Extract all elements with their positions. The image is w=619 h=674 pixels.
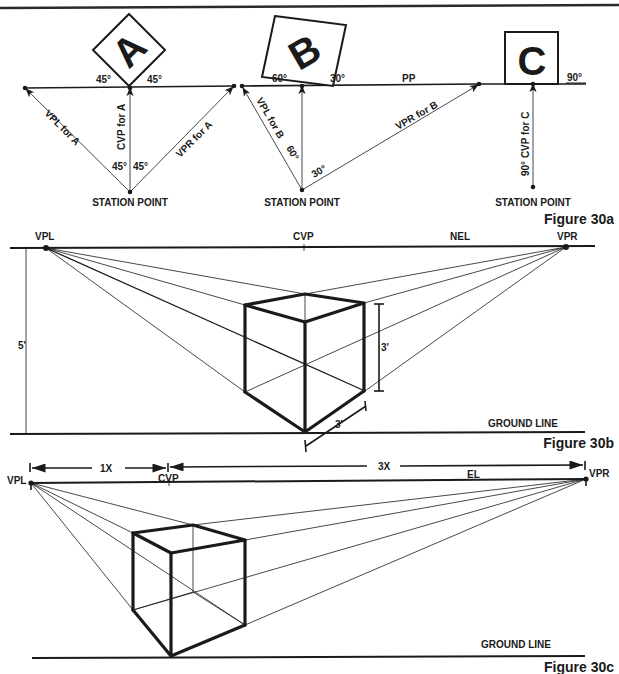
sp-angle-label: 30° <box>310 163 329 180</box>
vpr-label: VPR <box>557 231 578 242</box>
horizon-line <box>10 246 595 248</box>
ground-line-label: GROUND LINE <box>481 639 551 650</box>
angle-label: 90° <box>567 72 582 83</box>
station-point-c <box>531 185 536 190</box>
cube-30c <box>133 525 245 656</box>
station-point-c-label: STATION POINT <box>495 197 571 208</box>
vpr-label: VPR <box>589 468 610 479</box>
cube-depth-label: 3' <box>335 419 343 430</box>
cvp-label: CVP <box>293 231 314 242</box>
ground-line <box>32 656 585 658</box>
angle-label: 45° <box>96 74 111 85</box>
figure-30c: 1X 3X VPL CVP EL VPR <box>7 461 614 674</box>
vpr-b-label: VPR for B <box>394 99 440 132</box>
vpl-b-point <box>240 84 245 89</box>
sp-angle-label: 60° <box>284 144 301 163</box>
horizon-label: EL <box>467 469 480 480</box>
vpl-label: VPL <box>7 475 26 486</box>
pp-label: PP <box>402 73 416 84</box>
vpr-b-point <box>477 82 482 87</box>
cvp-b-point <box>300 84 305 89</box>
vpl-a-label: VPL for A <box>43 108 83 148</box>
vpr-a-point <box>232 84 237 89</box>
ground-line-label: GROUND LINE <box>488 418 558 429</box>
station-point-a-label: STATION POINT <box>92 197 168 208</box>
eye-height-label: 5' <box>18 340 26 351</box>
vpr-b-line <box>302 85 478 190</box>
perspective-diagram-page: A 45° 45° 45° 45° VPL for A CVP for A VP… <box>0 0 619 674</box>
vpr-a-label: VPR for A <box>174 119 215 160</box>
span-dimensions <box>30 461 585 472</box>
left-span-label: 1X <box>100 463 113 474</box>
group-b: B 60° 30° PP 60° 60° 30° VPL for B VPR f… <box>240 16 482 208</box>
ground-line <box>10 432 585 434</box>
cube-height-label: 3' <box>381 342 389 353</box>
vpl-a-point <box>23 86 28 91</box>
cvp-c-label: 90° CVP for C <box>520 112 531 176</box>
vpl-construction-lines <box>31 483 245 625</box>
angle-label: 45° <box>112 161 127 172</box>
group-c: C 90° 90° CVP for C STATION POINT <box>495 32 586 208</box>
figure-30b-caption: Figure 30b <box>543 435 614 451</box>
cvp-a-point <box>128 86 133 91</box>
picture-plane-line <box>241 84 480 86</box>
cvp-a-label: CVP for A <box>116 104 127 150</box>
top-rule <box>0 5 619 8</box>
vpl-b-line <box>243 88 302 190</box>
vpl-b-label: VPL for B <box>254 96 286 141</box>
figure-30a-caption: Figure 30a <box>544 211 614 227</box>
cvp-c-point <box>531 82 536 87</box>
angle-label: 45° <box>133 161 148 172</box>
horizon-label: NEL <box>450 231 470 242</box>
cvp-label: CVP <box>158 473 179 484</box>
figure-30b: 5' VPL CVP NEL VPR <box>10 231 614 452</box>
vpl-construction-lines <box>46 248 365 392</box>
vpr-construction-lines <box>133 479 586 625</box>
station-point-b <box>300 188 305 193</box>
right-span-label: 3X <box>378 461 391 472</box>
horizon-line <box>30 479 586 483</box>
station-point-b-label: STATION POINT <box>264 197 340 208</box>
figure-30a: A 45° 45° 45° 45° VPL for A CVP for A VP… <box>23 14 615 227</box>
vpl-label: VPL <box>35 231 54 242</box>
group-a: A 45° 45° 45° 45° VPL for A CVP for A VP… <box>23 14 237 208</box>
figure-30c-caption: Figure 30c <box>544 659 614 674</box>
angle-label: 30° <box>330 73 345 84</box>
angle-label: 45° <box>147 74 162 85</box>
station-point-a <box>128 190 133 195</box>
vpr-a-line <box>130 87 233 192</box>
cube-30b <box>245 294 364 432</box>
angle-label: 60° <box>272 73 287 84</box>
object-c-letter: C <box>518 39 547 83</box>
